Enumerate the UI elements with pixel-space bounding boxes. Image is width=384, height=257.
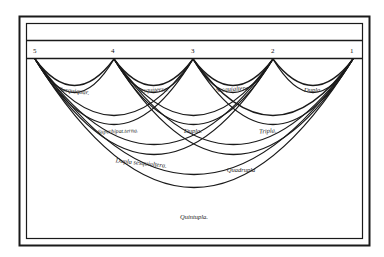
label-tripla: Tripla. [259,126,277,134]
number-1: 1 [350,47,354,55]
ratio-diagram: 5 4 3 2 1 [0,0,384,257]
number-4: 4 [111,47,115,55]
arc-labels: Sesquiquar. Sesquiterza. Sesquialtera. D… [59,84,322,220]
label-dupla-4-2: Dupla. [183,127,202,134]
label-superbipartiens-tertia: Superbipat.terna. [98,127,139,134]
arc-5-1 [35,59,353,188]
label-dupla-2-1: Dupla. [303,86,322,93]
number-2: 2 [271,47,275,55]
label-sesquiquarta: Sesquiquar. [59,85,90,95]
label-quadrupla: Quadrupla [227,166,256,173]
label-dupla-sesquialtera: Dupla sesquialtera. [114,156,167,168]
number-labels: 5 4 3 2 1 [33,47,354,55]
number-5: 5 [33,47,37,55]
arcs [35,59,353,188]
label-quintupla: Quintupla. [180,213,208,220]
number-3: 3 [191,47,195,55]
